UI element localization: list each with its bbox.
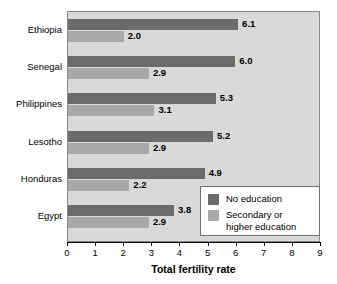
bar-ethiopia-no-education — [68, 19, 238, 30]
value-label-lesotho-secondary-education: 2.9 — [153, 142, 166, 153]
value-label-honduras-secondary-education: 2.2 — [133, 179, 146, 190]
bar-honduras-secondary-education — [68, 180, 129, 191]
legend-label-no-education: No education — [226, 193, 282, 205]
bar-senegal-no-education — [68, 56, 235, 67]
legend-item-no-education: No education — [208, 193, 282, 205]
value-label-senegal-secondary-education: 2.9 — [153, 67, 166, 78]
x-tick-5 — [208, 242, 209, 246]
value-label-ethiopia-secondary-education: 2.0 — [128, 30, 141, 41]
x-tick-label-2: 2 — [116, 247, 130, 258]
x-tick-6 — [236, 242, 237, 246]
x-tick-4 — [179, 242, 180, 246]
x-tick-label-5: 5 — [201, 247, 215, 258]
category-label-ethiopia: Ethiopia — [0, 24, 62, 35]
x-tick-label-1: 1 — [88, 247, 102, 258]
chart-legend: No education Secondary or higher educati… — [200, 186, 320, 236]
x-tick-label-9: 9 — [313, 247, 327, 258]
x-tick-label-6: 6 — [229, 247, 243, 258]
value-label-egypt-no-education: 3.8 — [178, 204, 191, 215]
x-tick-9 — [320, 242, 321, 246]
x-tick-label-3: 3 — [144, 247, 158, 258]
category-label-lesotho: Lesotho — [0, 136, 62, 147]
category-label-egypt: Egypt — [0, 210, 62, 221]
category-axis-labels: EthiopiaSenegalPhilippinesLesothoHondura… — [0, 11, 62, 242]
x-axis-line — [67, 242, 320, 243]
value-label-egypt-secondary-education: 2.9 — [153, 216, 166, 227]
value-label-lesotho-no-education: 5.2 — [217, 130, 230, 141]
x-tick-0 — [67, 242, 68, 246]
fertility-rate-bar-chart: EthiopiaSenegalPhilippinesLesothoHondura… — [0, 0, 337, 284]
x-tick-label-0: 0 — [60, 247, 74, 258]
legend-item-secondary-education: Secondary or higher education — [208, 209, 296, 232]
value-label-ethiopia-no-education: 6.1 — [242, 18, 255, 29]
x-tick-label-8: 8 — [285, 247, 299, 258]
bar-ethiopia-secondary-education — [68, 31, 124, 42]
value-label-honduras-no-education: 4.9 — [209, 167, 222, 178]
category-label-honduras: Honduras — [0, 173, 62, 184]
x-tick-1 — [95, 242, 96, 246]
x-tick-label-4: 4 — [172, 247, 186, 258]
x-tick-label-7: 7 — [257, 247, 271, 258]
x-tick-8 — [292, 242, 293, 246]
legend-swatch-no-education — [208, 194, 219, 205]
bar-honduras-no-education — [68, 168, 205, 179]
category-label-philippines: Philippines — [0, 98, 62, 109]
value-label-philippines-secondary-education: 3.1 — [158, 104, 171, 115]
bar-philippines-no-education — [68, 93, 216, 104]
x-tick-3 — [151, 242, 152, 246]
bar-lesotho-no-education — [68, 131, 213, 142]
legend-swatch-secondary-education — [208, 210, 219, 221]
value-label-philippines-no-education: 5.3 — [220, 92, 233, 103]
bar-senegal-secondary-education — [68, 68, 149, 79]
bar-egypt-secondary-education — [68, 217, 149, 228]
x-axis-title: Total fertility rate — [67, 263, 320, 275]
bar-philippines-secondary-education — [68, 105, 154, 116]
bar-lesotho-secondary-education — [68, 143, 149, 154]
x-tick-7 — [264, 242, 265, 246]
x-tick-2 — [123, 242, 124, 246]
value-label-senegal-no-education: 6.0 — [239, 55, 252, 66]
bar-egypt-no-education — [68, 205, 174, 216]
category-label-senegal: Senegal — [0, 61, 62, 72]
legend-label-secondary-education: Secondary or higher education — [226, 209, 296, 232]
